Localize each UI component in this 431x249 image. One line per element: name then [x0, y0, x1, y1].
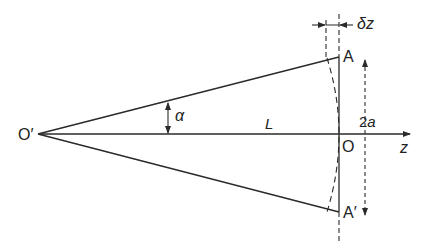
label-z: z — [400, 140, 408, 156]
label-a: A — [343, 49, 354, 65]
label-l: L — [265, 116, 273, 131]
label-a-prime: A′ — [343, 205, 357, 221]
label-delta-z: δz — [357, 16, 374, 32]
ray-o-prime-to-a — [38, 57, 339, 134]
label-alpha: α — [175, 108, 184, 124]
label-o-prime: O′ — [18, 127, 33, 143]
label-o: O — [342, 139, 354, 155]
label-two-a: 2a — [359, 114, 376, 129]
wavefront-arc — [327, 58, 339, 212]
diagram-canvas: O′ O A A′ α L 2a z δz — [0, 0, 431, 249]
ray-o-prime-to-a-prime — [38, 134, 339, 212]
